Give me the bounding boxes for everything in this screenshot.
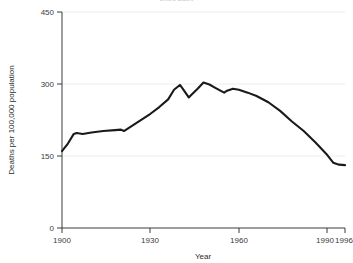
y-axis-title: Deaths per 100,000 population: [7, 65, 16, 174]
x-tick-label-1990: 1990: [316, 236, 334, 245]
y-tick-label-450: 450: [41, 8, 55, 17]
x-tick-label-1900: 1900: [53, 236, 71, 245]
x-tick-label-1930: 1930: [141, 236, 159, 245]
axes: [57, 12, 345, 233]
x-tick-label-1960: 1960: [230, 236, 248, 245]
x-tick-labels: 1900 1930 1960 1990 1996: [53, 236, 353, 245]
x-axis-title: Year: [195, 252, 212, 261]
y-tick-label-150: 150: [41, 152, 55, 161]
x-tick-label-1996: 1996: [335, 236, 353, 245]
line-chart-plot: 450 300 150 0 1900 1930 1960 1990 1996 Y…: [0, 0, 353, 263]
chart-figure: United States 450 300 150 0 19: [0, 0, 353, 263]
data-series-line: [62, 83, 345, 166]
y-tick-labels: 450 300 150 0: [41, 8, 55, 233]
y-tick-label-300: 300: [41, 80, 55, 89]
y-tick-label-0: 0: [50, 224, 55, 233]
